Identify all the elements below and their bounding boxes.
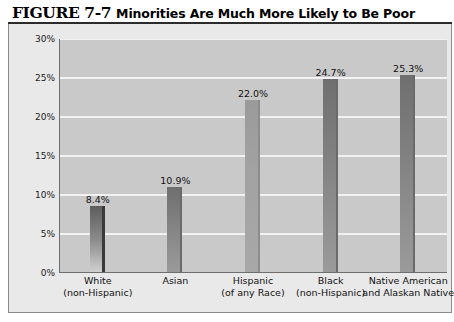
category-label-line-1: White [84, 275, 112, 286]
category-label-line-2: (non-Hispanic) [296, 287, 365, 299]
category-label-line-1: Hispanic [233, 275, 273, 286]
bar-value-label: 25.3% [393, 63, 423, 74]
figure-number-label: FIGURE 7-7 [12, 3, 111, 22]
y-axis-tick-label: 5% [11, 229, 55, 239]
bar [323, 79, 338, 272]
y-axis-tick-label: 20% [11, 112, 55, 122]
y-axis-tick-label: 15% [11, 151, 55, 161]
category-label-line-1: Native American [369, 275, 448, 286]
category-label-line-2: and Alaskan Native [362, 287, 454, 299]
x-axis-category-label: Native Americanand Alaskan Native [362, 275, 454, 299]
y-axis-tick-label: 0% [11, 268, 55, 278]
plot-area: 8.4%10.9%22.0%24.7%25.3% [59, 39, 447, 273]
page-title: Minorities Are Much More Likely to Be Po… [116, 6, 415, 21]
x-axis-category-label: Asian [162, 275, 188, 287]
x-axis-category-label: Black(non-Hispanic) [296, 275, 365, 299]
category-label-line-1: Asian [162, 275, 188, 286]
plot-inner: 8.4%10.9%22.0%24.7%25.3% [60, 39, 447, 272]
figure-title-row: FIGURE 7-7Minorities Are Much More Likel… [12, 3, 448, 23]
bar-value-label: 10.9% [160, 175, 190, 186]
y-axis-tick-label: 25% [11, 73, 55, 83]
bar [167, 187, 182, 272]
chart-panel: 30%25%20%15%10%5%0% 8.4%10.9%22.0%24.7%2… [8, 24, 452, 313]
category-label-line-2: (of any Race) [221, 287, 284, 299]
gridline [60, 39, 447, 40]
bar-value-label: 24.7% [316, 67, 346, 78]
y-axis: 30%25%20%15%10%5%0% [9, 39, 55, 273]
category-label-line-1: Black [318, 275, 344, 286]
bar [245, 100, 260, 272]
y-axis-tick-label: 30% [11, 34, 55, 44]
bar-value-label: 22.0% [238, 88, 268, 99]
figure-container: FIGURE 7-7Minorities Are Much More Likel… [4, 1, 448, 313]
x-axis-category-label: Hispanic(of any Race) [221, 275, 284, 299]
y-axis-tick-label: 10% [11, 190, 55, 200]
gridline [60, 77, 447, 79]
bar [90, 206, 105, 272]
bar-value-label: 8.4% [86, 194, 110, 205]
x-axis-category-label: White(non-Hispanic) [63, 275, 132, 299]
x-axis-labels: White(non-Hispanic)AsianHispanic(of any … [59, 275, 447, 309]
category-label-line-2: (non-Hispanic) [63, 287, 132, 299]
bar [400, 75, 415, 272]
